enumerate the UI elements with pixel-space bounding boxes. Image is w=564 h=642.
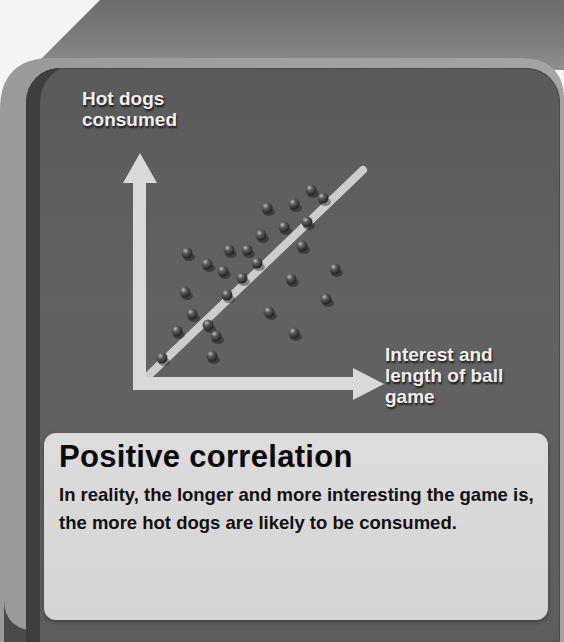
data-point <box>252 258 263 269</box>
data-point <box>180 287 191 298</box>
data-point <box>264 307 275 318</box>
data-point <box>218 266 229 277</box>
data-point <box>202 259 213 270</box>
data-point <box>242 245 253 256</box>
caption-description: In reality, the longer and more interest… <box>59 481 539 536</box>
data-point <box>321 294 332 305</box>
data-point <box>172 326 183 337</box>
data-point <box>256 230 267 241</box>
data-point <box>279 222 290 233</box>
y-axis-label-text: Hot dogs consumed <box>82 88 212 130</box>
data-point <box>289 328 300 339</box>
x-axis-arrow <box>133 368 384 400</box>
data-point <box>203 320 214 331</box>
data-point <box>302 217 313 228</box>
data-point <box>157 353 168 364</box>
x-axis-label: Interest and length of ball game <box>385 344 535 407</box>
data-point <box>224 245 235 256</box>
data-point <box>237 273 248 284</box>
data-point <box>286 274 297 285</box>
data-point <box>211 331 222 342</box>
data-point <box>289 199 300 210</box>
data-point <box>318 193 329 204</box>
caption-title: Positive correlation <box>59 439 353 475</box>
data-point <box>222 290 233 301</box>
caption-box: Positive correlation In reality, the lon… <box>44 433 548 620</box>
data-point <box>187 309 198 320</box>
data-point <box>297 241 308 252</box>
y-axis-label: Hot dogs consumed <box>82 88 212 130</box>
data-point <box>207 351 218 362</box>
data-point <box>262 203 273 214</box>
data-point <box>330 264 341 275</box>
y-axis-arrow <box>123 153 157 390</box>
data-point <box>306 185 317 196</box>
data-point <box>182 248 193 259</box>
x-axis-label-text: Interest and length of ball game <box>385 344 535 407</box>
